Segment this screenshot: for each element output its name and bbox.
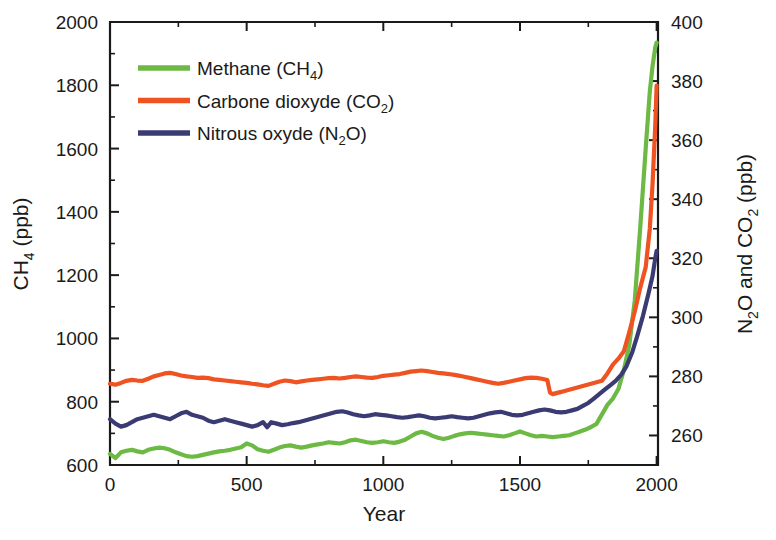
x-axis-tick-labels: 0500100015002000: [105, 474, 678, 495]
svg-text:N2O and CO2 (ppb): N2O and CO2 (ppb): [733, 154, 761, 334]
series-line-3: [110, 251, 657, 427]
x-tick-label: 1000: [362, 474, 404, 495]
right-tick-label: 400: [671, 12, 703, 33]
left-tick-label: 1200: [56, 265, 98, 286]
left-axis-ticks: [110, 22, 119, 465]
left-tick-label: 2000: [56, 12, 98, 33]
y-right-axis-title: N2O and CO2 (ppb): [733, 154, 761, 334]
legend-label-1: Methane (CH4): [197, 58, 324, 83]
chart-legend: Methane (CH4)Carbone dioxyde (CO2)Nitrou…: [138, 58, 394, 148]
right-tick-label: 340: [671, 189, 703, 210]
svg-text:Year: Year: [363, 502, 405, 525]
legend-label-3: Nitrous oxyde (N2O): [197, 123, 367, 148]
x-tick-label: 0: [105, 474, 116, 495]
right-tick-label: 320: [671, 248, 703, 269]
legend-label-2: Carbone dioxyde (CO2): [197, 91, 394, 116]
left-tick-label: 1600: [56, 139, 98, 160]
left-tick-label: 1000: [56, 328, 98, 349]
right-tick-label: 380: [671, 71, 703, 92]
right-tick-label: 300: [671, 307, 703, 328]
x-tick-label: 1500: [499, 474, 541, 495]
left-tick-label: 1800: [56, 75, 98, 96]
right-tick-label: 360: [671, 130, 703, 151]
right-tick-label: 260: [671, 425, 703, 446]
x-tick-label: 2000: [635, 474, 677, 495]
right-axis-tick-labels: 260280300320340360380400: [671, 12, 703, 446]
greenhouse-gas-line-chart: 600800100012001400160018002000 260280300…: [0, 0, 776, 540]
left-tick-label: 1400: [56, 202, 98, 223]
svg-text:CH4 (ppb): CH4 (ppb): [9, 198, 37, 291]
plot-frame: [110, 22, 658, 465]
right-tick-label: 280: [671, 366, 703, 387]
x-axis-title: Year: [363, 502, 405, 525]
y-left-axis-title: CH4 (ppb): [9, 198, 37, 291]
chart-figure: 600800100012001400160018002000 260280300…: [0, 0, 776, 540]
series-line-2: [110, 86, 657, 395]
left-axis-tick-labels: 600800100012001400160018002000: [56, 12, 98, 476]
top-axis-ticks: [110, 22, 657, 31]
left-tick-label: 800: [66, 392, 98, 413]
left-tick-label: 600: [66, 455, 98, 476]
x-tick-label: 500: [231, 474, 263, 495]
